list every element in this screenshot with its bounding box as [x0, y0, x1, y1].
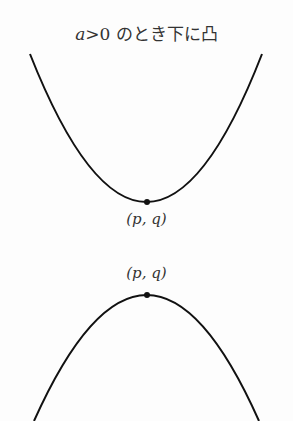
upper-vertex-label: (p, q) [0, 210, 293, 228]
upper-vertex-point [144, 199, 150, 205]
upward-parabola [30, 54, 262, 202]
lower-vertex-label: (p, q) [0, 264, 293, 282]
lower-vertex-point [144, 292, 150, 298]
downward-parabola [34, 295, 259, 421]
parabola-diagram: a>0 のとき下に凸 (p, q) (p, q) [0, 0, 293, 421]
